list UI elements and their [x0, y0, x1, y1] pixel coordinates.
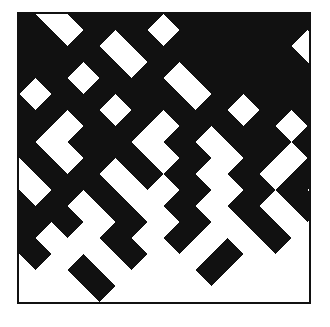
lattice-cell	[291, 126, 309, 158]
artwork-canvas	[0, 0, 330, 327]
artwork-frame	[17, 12, 311, 304]
diagonal-lattice-pattern	[19, 14, 309, 302]
